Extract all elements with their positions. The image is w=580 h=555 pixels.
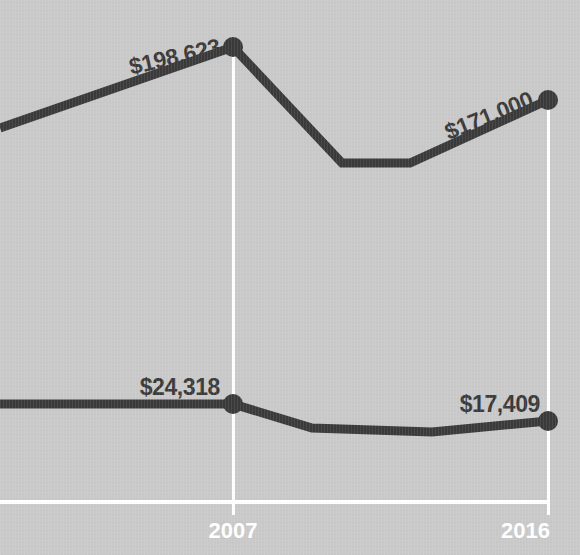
line-chart: $198,623 $171,000 $24,318 $17,409 2007 2… bbox=[0, 0, 580, 555]
marker-lower-2016 bbox=[538, 411, 558, 431]
x-tick-label-2016: 2016 bbox=[350, 518, 550, 544]
value-label-24318: $24,318 bbox=[0, 374, 220, 401]
x-tick-label-2007: 2007 bbox=[133, 518, 333, 544]
value-label-17409: $17,409 bbox=[240, 391, 540, 418]
marker-upper-2007 bbox=[223, 37, 243, 57]
marker-upper-2016 bbox=[538, 90, 558, 110]
